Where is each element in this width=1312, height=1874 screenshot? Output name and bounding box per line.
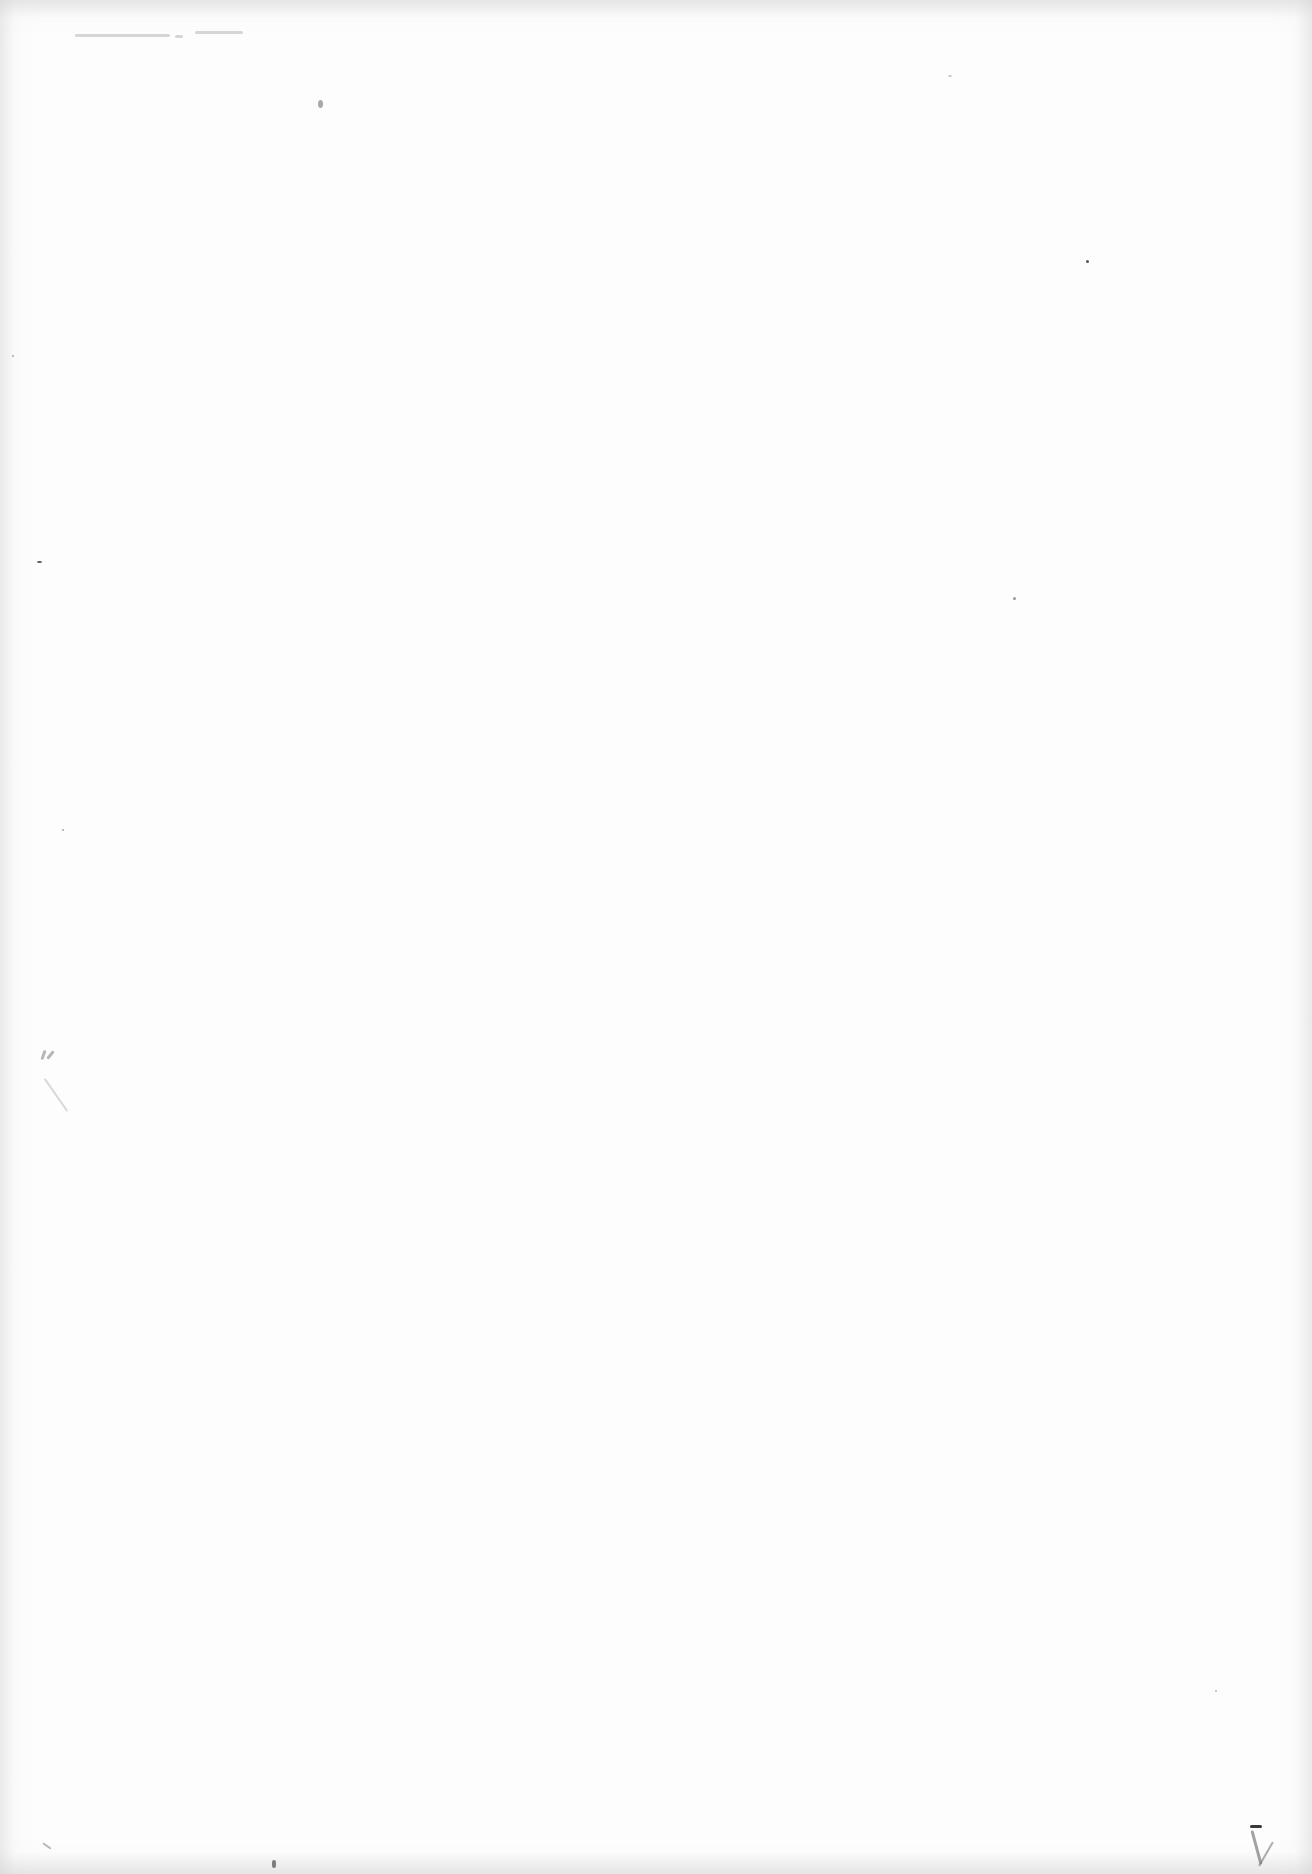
page-edge-shadow-top [0,0,1312,18]
corner-mark [42,1842,51,1849]
speck [37,561,42,563]
speck [12,355,14,357]
margin-mark [46,1050,55,1060]
speck [1215,1690,1217,1692]
page-edge-shadow-right [1296,0,1312,1874]
faint-stroke [195,31,243,34]
corner-mark [1250,1825,1262,1828]
speck [948,75,952,77]
faint-stroke [75,34,170,37]
speck [1086,260,1089,263]
margin-mark [40,1050,46,1060]
faint-header-note [75,30,245,40]
speck [62,829,64,831]
faint-stroke [175,35,183,38]
page-edge-shadow-left [0,0,14,1874]
speck [1013,597,1016,600]
scanned-page [0,0,1312,1874]
margin-mark [44,1078,69,1112]
speck [318,100,323,108]
page-edge-shadow-bottom [0,1852,1312,1874]
corner-mark [272,1860,276,1868]
